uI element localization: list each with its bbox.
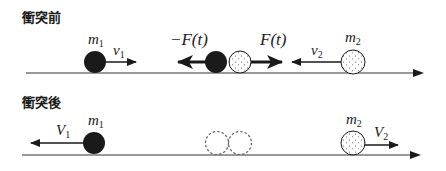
V1-label: V1 bbox=[56, 122, 70, 140]
axis-arrow-icon bbox=[413, 69, 424, 77]
ball-m1-after: m1 V1 bbox=[31, 112, 105, 154]
axis-arrow-icon bbox=[410, 151, 421, 159]
ball-m2-before: m2 v2 bbox=[292, 29, 365, 74]
ghost-collision-position bbox=[206, 132, 252, 155]
m2-label: m2 bbox=[346, 111, 362, 129]
m1-label: m1 bbox=[88, 112, 104, 130]
ball-m1-colliding bbox=[205, 51, 227, 73]
collision-diagram: 衝突前 m1 v1 −F(t) F(t) m2 v2 衝突後 bbox=[0, 0, 446, 171]
m1-label: m1 bbox=[88, 31, 104, 49]
v2-label: v2 bbox=[311, 42, 323, 60]
V2-label: V2 bbox=[374, 124, 388, 142]
ball-m2-colliding bbox=[229, 51, 251, 73]
force-right-label: F(t) bbox=[259, 30, 287, 49]
collision-pair: −F(t) F(t) bbox=[170, 30, 287, 73]
ball-m2-after: m2 V2 bbox=[341, 111, 398, 155]
ball-m1-before: m1 v1 bbox=[84, 31, 136, 73]
m2-label: m2 bbox=[345, 29, 361, 47]
force-left-label: −F(t) bbox=[170, 30, 208, 49]
before-title: 衝突前 bbox=[21, 10, 61, 25]
before-section: 衝突前 m1 v1 −F(t) F(t) m2 v2 bbox=[21, 10, 424, 77]
v1-label: v1 bbox=[113, 42, 125, 60]
after-title: 衝突後 bbox=[21, 95, 62, 110]
after-section: 衝突後 m1 V1 m2 V2 bbox=[21, 95, 421, 159]
